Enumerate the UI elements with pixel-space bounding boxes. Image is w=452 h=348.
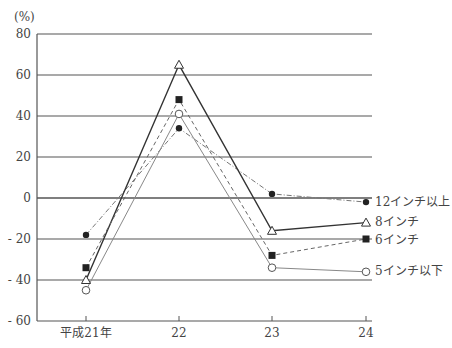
data-point-marker bbox=[269, 191, 275, 197]
data-point-marker bbox=[83, 264, 90, 271]
svg-text:平成21年: 平成21年 bbox=[60, 326, 111, 340]
series-line-3 bbox=[86, 114, 366, 290]
data-point-marker bbox=[83, 232, 89, 238]
svg-text:- 20: - 20 bbox=[8, 232, 31, 246]
svg-text:- 40: - 40 bbox=[8, 273, 31, 287]
series-line-1 bbox=[86, 65, 366, 280]
data-point-marker bbox=[268, 264, 276, 272]
data-point-marker bbox=[362, 218, 371, 226]
svg-text:24: 24 bbox=[358, 326, 374, 340]
legend-6inch: 6インチ bbox=[375, 233, 419, 247]
legend: 12インチ以上 8インチ 6インチ 5インチ以下 bbox=[375, 195, 450, 278]
data-point-marker bbox=[82, 286, 90, 294]
svg-text:- 60: - 60 bbox=[8, 314, 31, 328]
data-point-marker bbox=[176, 96, 183, 103]
data-point-marker bbox=[363, 199, 369, 205]
legend-5inch: 5インチ以下 bbox=[375, 264, 443, 278]
data-point-marker bbox=[362, 268, 370, 276]
legend-12inch: 12インチ以上 bbox=[375, 195, 450, 209]
data-point-marker bbox=[175, 110, 183, 118]
data-point-marker bbox=[269, 252, 276, 259]
y-unit-label: (%) bbox=[14, 10, 35, 24]
svg-text:0: 0 bbox=[23, 191, 31, 205]
y-tick-labels: 80 60 40 20 0 - 20 - 40 - 60 bbox=[8, 27, 31, 328]
series-layer bbox=[82, 60, 371, 294]
data-point-marker bbox=[175, 60, 184, 68]
svg-text:60: 60 bbox=[16, 68, 31, 82]
line-chart: (%) 80 60 40 20 0 - 20 - 40 - 60 平成21年 2… bbox=[0, 0, 452, 348]
svg-text:80: 80 bbox=[16, 27, 31, 41]
legend-8inch: 8インチ bbox=[375, 215, 419, 229]
svg-text:40: 40 bbox=[16, 109, 31, 123]
data-point-marker bbox=[363, 236, 370, 243]
x-ticks bbox=[86, 316, 366, 321]
x-tick-labels: 平成21年 22 23 24 bbox=[60, 326, 374, 340]
data-point-marker bbox=[176, 125, 182, 131]
svg-text:23: 23 bbox=[264, 326, 279, 340]
svg-text:22: 22 bbox=[171, 326, 186, 340]
svg-text:20: 20 bbox=[16, 150, 31, 164]
